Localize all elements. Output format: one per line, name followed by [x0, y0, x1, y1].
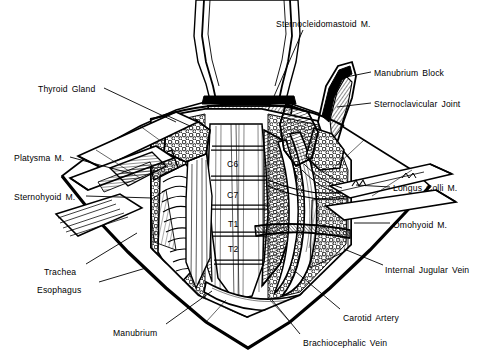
label-thyroid-gland: Thyroid Gland — [38, 84, 95, 94]
vertebral-level-c7: C7 — [227, 190, 238, 200]
label-trachea: Trachea — [44, 267, 76, 277]
vertebral-level-c6: C6 — [227, 159, 238, 169]
label-sternocleidomastoid: Sternocleidomastoid M. — [276, 19, 371, 29]
label-manubrium-block: Manubrium Block — [374, 68, 444, 78]
vertebral-level-t1: T1 — [228, 219, 238, 229]
label-platysma: Platysma M. — [14, 153, 64, 163]
anatomical-figure: Sternocleidomastoid M.Manubrium BlockSte… — [0, 0, 491, 359]
label-sternoclavicular-joint: Sternoclavicular Joint — [374, 99, 460, 109]
leader-line-esophagus — [99, 268, 146, 282]
leader-line-thyroid-gland — [104, 88, 176, 122]
anatomy-illustration — [0, 0, 491, 359]
label-omohyoid: Omohyoid M. — [393, 220, 447, 230]
label-esophagus: Esophagus — [37, 285, 81, 295]
label-internal-jugular-vein: Internal Jugular Vein — [385, 265, 469, 275]
label-brachiocephalic-vein: Brachiocephalic Vein — [303, 338, 387, 348]
label-sternohyoid: Sternohyoid M. — [14, 192, 75, 202]
vertebral-level-t2: T2 — [228, 244, 238, 254]
label-longus-colli: Longus Colli M. — [393, 183, 457, 193]
label-manubrium: Manubrium — [113, 328, 157, 338]
label-carotid-artery: Carotid Artery — [343, 313, 399, 323]
